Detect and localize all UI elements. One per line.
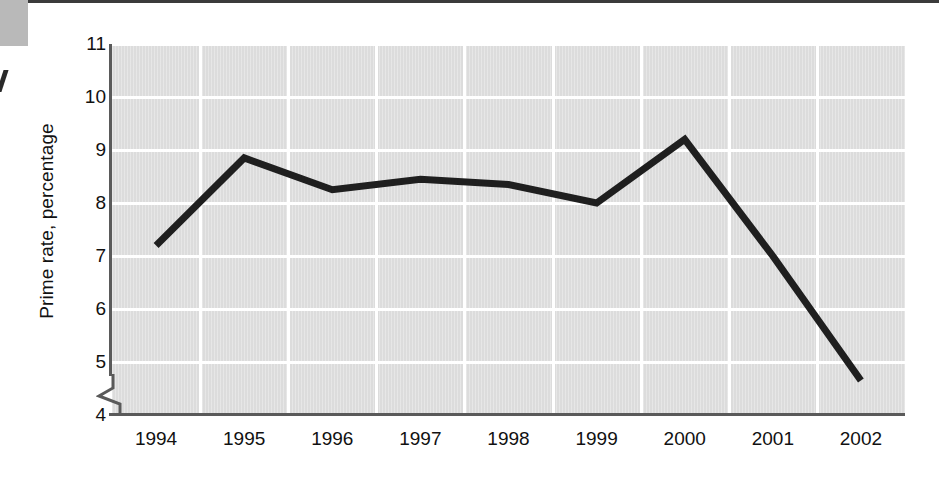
y-tick-label: 5 xyxy=(72,352,106,371)
y-axis-tick-labels: 4567891011 xyxy=(62,44,106,415)
line-chart-figure: Prime rate, percentage 4567891011 199419… xyxy=(0,0,939,491)
y-tick-label: 9 xyxy=(72,140,106,159)
series-line-prime-rate xyxy=(112,44,905,415)
x-axis-tick-labels: 199419951996199719981999200020012002 xyxy=(112,428,905,458)
x-tick-label: 2002 xyxy=(801,428,921,450)
y-axis-title: Prime rate, percentage xyxy=(36,91,58,351)
y-tick-label: 8 xyxy=(72,193,106,212)
y-tick-label: 6 xyxy=(72,299,106,318)
y-tick-label: 10 xyxy=(72,87,106,106)
y-tick-label: 11 xyxy=(72,34,106,53)
y-tick-label: 7 xyxy=(72,246,106,265)
